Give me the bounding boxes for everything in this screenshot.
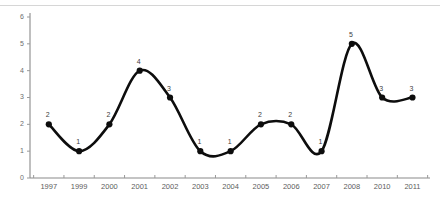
data-marker <box>167 94 173 100</box>
x-tick-label: 2005 <box>253 182 270 191</box>
data-point-label: 1 <box>76 138 80 145</box>
x-tick-label: 2008 <box>344 182 361 191</box>
x-tick-label: 2003 <box>192 182 209 191</box>
data-marker <box>197 148 203 154</box>
data-marker <box>106 121 112 127</box>
data-point-label: 1 <box>197 138 201 145</box>
data-marker <box>318 148 324 154</box>
plot-area: 0123456 2124311221533 199719992000200120… <box>0 0 440 197</box>
x-tick-label: 2007 <box>313 182 330 191</box>
x-tick-label: 2006 <box>283 182 300 191</box>
data-point-label: 2 <box>46 111 50 118</box>
x-tick-labels: 1997199920002001200220032004200520062007… <box>40 182 420 191</box>
y-tick-label: 4 <box>20 67 24 74</box>
data-marker <box>137 68 143 74</box>
y-tick-label: 2 <box>20 120 24 127</box>
data-point-label: 2 <box>106 111 110 118</box>
y-axis: 0123456 <box>20 13 30 181</box>
data-point-label: 3 <box>410 85 414 92</box>
data-marker <box>409 94 415 100</box>
data-marker <box>46 121 52 127</box>
y-tick-label: 1 <box>20 147 24 154</box>
x-axis <box>30 175 430 178</box>
y-tick-label: 6 <box>20 13 24 20</box>
y-tick-label: 5 <box>20 40 24 47</box>
data-marker <box>228 148 234 154</box>
x-tick-label: 2004 <box>222 182 239 191</box>
data-marker <box>379 94 385 100</box>
data-point-label: 1 <box>228 138 232 145</box>
x-tick-label: 2011 <box>404 182 420 191</box>
data-marker <box>76 148 82 154</box>
data-point-label: 2 <box>258 111 262 118</box>
x-tick-label: 2002 <box>162 182 179 191</box>
x-tick-label: 2001 <box>131 182 148 191</box>
x-tick-label: 1999 <box>71 182 88 191</box>
data-point-label: 1 <box>319 138 323 145</box>
data-marker <box>288 121 294 127</box>
data-point-labels: 2124311221533 <box>46 31 414 145</box>
data-point-label: 5 <box>349 31 353 38</box>
x-tick-label: 2010 <box>374 182 391 191</box>
x-tick-label: 2000 <box>101 182 118 191</box>
y-tick-label: 3 <box>20 93 24 100</box>
data-point-label: 3 <box>379 85 383 92</box>
data-marker <box>258 121 264 127</box>
chart-figure: 0123456 2124311221533 199719992000200120… <box>0 0 440 197</box>
data-point-label: 4 <box>137 58 141 65</box>
data-point-label: 3 <box>167 85 171 92</box>
data-marker <box>349 41 355 47</box>
data-point-label: 2 <box>288 111 292 118</box>
x-tick-label: 1997 <box>40 182 57 191</box>
line-chart-svg: 0123456 2124311221533 199719992000200120… <box>0 0 440 197</box>
y-tick-label: 0 <box>20 174 24 181</box>
